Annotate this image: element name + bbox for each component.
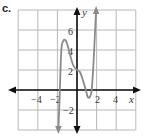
y-axis-label: y (81, 6, 87, 18)
x-tick-4: 4 (113, 94, 118, 105)
tick-labels: −4 −2 2 4 x 6 4 2 −2 y (31, 6, 134, 116)
x-tick-neg4: −4 (31, 94, 42, 105)
graph: −4 −2 2 4 x 6 4 2 −2 y (0, 0, 147, 137)
x-axis-right-arrow-icon (133, 87, 141, 94)
x-axis-label: x (128, 93, 134, 105)
x-tick-2: 2 (95, 94, 100, 105)
y-tick-6: 6 (68, 26, 73, 37)
y-axis-up-arrow-icon (74, 7, 81, 15)
y-tick-2: 2 (68, 66, 73, 77)
x-axis-left-arrow-icon (8, 87, 16, 94)
y-tick-neg2: −2 (63, 105, 74, 116)
